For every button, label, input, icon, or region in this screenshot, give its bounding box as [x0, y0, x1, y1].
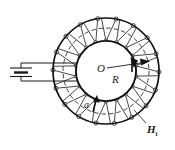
- thickness-label: a: [84, 100, 89, 110]
- winding-turn-return: [55, 76, 77, 84]
- field-vector-label: Hi: [147, 124, 158, 138]
- battery-symbol: [10, 63, 32, 81]
- winding-turn: [53, 70, 76, 76]
- winding-turn-return: [63, 86, 80, 101]
- winding-turn: [114, 99, 116, 123]
- winding-turn: [66, 36, 80, 56]
- winding-turn-return: [106, 101, 111, 124]
- radius-label: R: [112, 74, 119, 85]
- field-symbol-text: H: [147, 123, 156, 135]
- winding-turn-return: [136, 76, 159, 77]
- winding-turn-return: [132, 41, 149, 56]
- winding-turn-return: [53, 66, 76, 67]
- winding-turn: [132, 86, 146, 106]
- winding-turn: [96, 19, 98, 43]
- winding-turn-return: [101, 18, 106, 41]
- field-subscript-text: i: [156, 130, 158, 138]
- toroid-figure: O R a Hi: [0, 0, 175, 150]
- winding-turn: [106, 19, 116, 41]
- winding-turn: [56, 86, 80, 88]
- center-point-label: O: [97, 63, 105, 74]
- winding-turn: [96, 101, 106, 123]
- winding-turn: [136, 66, 159, 72]
- winding-turn: [132, 54, 156, 56]
